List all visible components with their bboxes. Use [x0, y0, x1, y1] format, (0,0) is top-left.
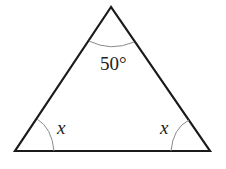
triangle [15, 7, 210, 151]
bottom-right-angle-label: x [159, 117, 169, 138]
triangle-diagram: 50° x x [0, 0, 226, 169]
bottom-left-angle-label: x [56, 117, 66, 138]
apex-angle-label: 50° [100, 53, 127, 74]
